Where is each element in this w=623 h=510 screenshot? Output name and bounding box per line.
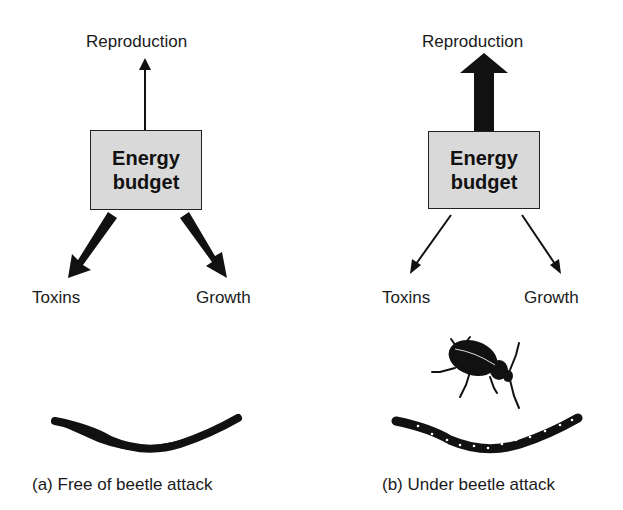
diagram-graphics bbox=[0, 0, 623, 510]
box-label-line2-b: budget bbox=[450, 170, 518, 194]
label-toxins-a: Toxins bbox=[32, 288, 80, 308]
caption-b: (b) Under beetle attack bbox=[382, 475, 555, 495]
arrow-reproduction-b bbox=[474, 70, 494, 132]
box-label-line1-b: Energy bbox=[450, 146, 518, 170]
energy-budget-box-a: Energy budget bbox=[90, 130, 202, 210]
label-growth-a: Growth bbox=[196, 288, 251, 308]
arrow-growth-b bbox=[522, 215, 555, 264]
energy-budget-box-b: Energy budget bbox=[428, 131, 540, 209]
larva-icon-b bbox=[396, 418, 578, 449]
caption-a: (a) Free of beetle attack bbox=[32, 475, 212, 495]
label-reproduction-b: Reproduction bbox=[422, 32, 523, 52]
arrow-toxins-a bbox=[68, 212, 117, 278]
box-label-line2-a: budget bbox=[112, 170, 180, 194]
label-toxins-b: Toxins bbox=[382, 288, 430, 308]
label-growth-b: Growth bbox=[524, 288, 579, 308]
label-reproduction-a: Reproduction bbox=[86, 32, 187, 52]
box-label-line1-a: Energy bbox=[112, 146, 180, 170]
arrow-toxins-b bbox=[416, 215, 451, 264]
beetle-icon bbox=[432, 334, 519, 408]
larva-icon-a bbox=[53, 416, 242, 451]
arrow-growth-a bbox=[180, 212, 227, 278]
